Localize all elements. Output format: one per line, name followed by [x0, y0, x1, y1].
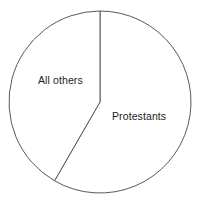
pie-chart-svg [0, 0, 202, 205]
pie-slice-label-all-others: All others [38, 75, 83, 86]
pie-chart-figure: All others Protestants [0, 0, 202, 205]
pie-slice-label-protestants: Protestants [112, 111, 166, 122]
